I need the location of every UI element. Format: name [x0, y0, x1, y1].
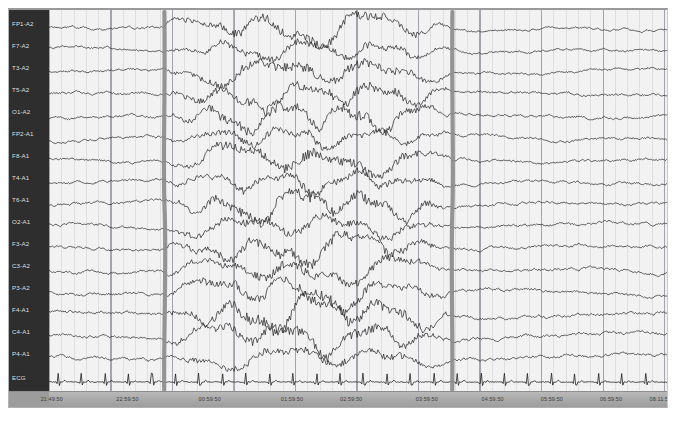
channel-label-p3-a2[interactable]: P3-A2	[12, 284, 30, 292]
trace-t3-a2	[49, 59, 667, 89]
time-tick-label: 05:59:50	[541, 396, 563, 402]
trace-fp1-a2	[49, 11, 667, 50]
trace-o1-a2	[49, 100, 667, 136]
trace-f3-a2	[49, 231, 667, 269]
channel-label-t3-a2[interactable]: T3-A2	[12, 64, 29, 72]
channel-label-p4-a1[interactable]: P4-A1	[12, 350, 30, 358]
trace-ecg	[49, 373, 667, 386]
time-tick-label: 04:59:50	[482, 396, 504, 402]
time-tick-label: 00:59:50	[199, 396, 221, 402]
trace-t6-a1	[49, 189, 667, 228]
channel-label-column: FP1-A2F7-A2T3-A2T5-A2O1-A2FP2-A1F8-A1T4-…	[9, 10, 49, 393]
time-tick-label: 08:11:50	[650, 396, 668, 402]
time-tick-label: 03:59:50	[416, 396, 438, 402]
trace-f7-a2	[49, 39, 667, 63]
channel-label-c3-a2[interactable]: C3-A2	[12, 262, 30, 270]
channel-label-ecg[interactable]: ECG	[12, 374, 26, 382]
trace-fp2-a1	[49, 127, 667, 151]
eeg-traces	[49, 10, 667, 393]
time-tick-label: 21:49:50	[41, 396, 63, 402]
channel-label-o2-a1[interactable]: O2-A1	[12, 218, 30, 226]
channel-label-t5-a2[interactable]: T5-A2	[12, 86, 29, 94]
time-tick-label: 06:59:50	[600, 396, 622, 402]
time-ruler[interactable]: 21:49:5022:59:5000:59:5001:59:5002:59:50…	[9, 391, 667, 407]
trace-p3-a2	[49, 277, 667, 317]
channel-label-f8-a1[interactable]: F8-A1	[12, 152, 29, 160]
trace-p4-a1	[49, 347, 667, 372]
channel-label-fp2-a1[interactable]: FP2-A1	[12, 130, 34, 138]
trace-t4-a1	[49, 168, 667, 197]
channel-label-t6-a1[interactable]: T6-A1	[12, 196, 29, 204]
trace-o2-a1	[49, 213, 667, 241]
channel-label-f7-a2[interactable]: F7-A2	[12, 42, 29, 50]
channel-label-o1-a2[interactable]: O1-A2	[12, 108, 30, 116]
time-tick-label: 02:59:50	[340, 396, 362, 402]
channel-label-c4-a1[interactable]: C4-A1	[12, 328, 30, 336]
trace-t5-a2	[49, 81, 667, 116]
channel-label-t4-a1[interactable]: T4-A1	[12, 174, 29, 182]
eeg-chart-panel[interactable]: FP1-A2F7-A2T3-A2T5-A2O1-A2FP2-A1F8-A1T4-…	[8, 8, 668, 408]
trace-c3-a2	[49, 255, 667, 287]
time-tick-label: 01:59:50	[281, 396, 303, 402]
channel-label-fp1-a2[interactable]: FP1-A2	[12, 20, 34, 28]
trace-f4-a1	[49, 291, 667, 336]
eeg-viewer-window: FP1-A2F7-A2T3-A2T5-A2O1-A2FP2-A1F8-A1T4-…	[0, 0, 676, 424]
channel-label-f4-a1[interactable]: F4-A1	[12, 306, 29, 314]
waveform-plot-area[interactable]	[49, 10, 667, 393]
channel-label-f3-a2[interactable]: F3-A2	[12, 240, 29, 248]
time-tick-label: 22:59:50	[116, 396, 138, 402]
